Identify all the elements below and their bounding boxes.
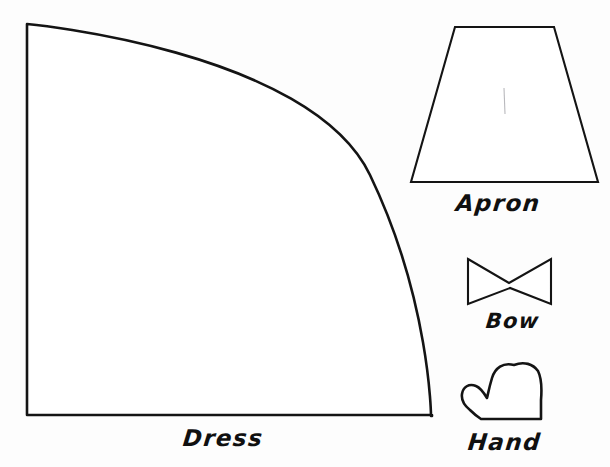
- apron-piece-label: Apron: [455, 190, 542, 216]
- dress-piece-outline: [27, 24, 432, 416]
- bow-piece-label: Bow: [485, 309, 541, 333]
- hand-piece-outline: [462, 363, 542, 419]
- bow-piece-outline: [468, 259, 551, 304]
- pattern-sheet: Dress Apron Bow Hand: [0, 0, 610, 467]
- hand-piece-label: Hand: [467, 429, 543, 455]
- dress-piece-label: Dress: [182, 425, 265, 451]
- pattern-drawing-layer: [0, 0, 610, 467]
